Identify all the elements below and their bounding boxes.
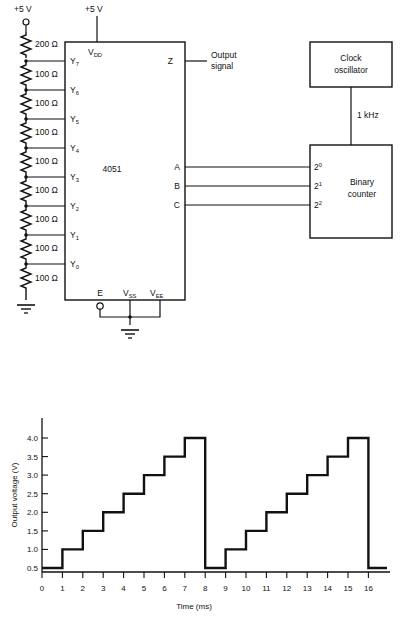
x-tick-label-3: 3: [101, 584, 106, 593]
clock-oscillator-label-line1: Clock: [340, 53, 362, 63]
y-tick-label-6: 3.5: [27, 453, 39, 462]
ic-pin-label-y0: Y0: [70, 259, 79, 270]
counter-output-label-2-2: 22: [314, 200, 322, 210]
y-tick-label-5: 3.0: [27, 471, 39, 480]
waveform-chart: 0.5 1.0 1.5 2.0 2.5 3.0 3.5 4.0 0 1 2 3: [10, 418, 390, 611]
chart-waveform-series: [42, 438, 387, 568]
clock-frequency-label: 1 kHz: [357, 110, 379, 120]
resistor-symbol-1: [21, 32, 31, 58]
supply-left-label: +5 V: [14, 4, 32, 14]
x-tick-label-7: 7: [183, 584, 188, 593]
x-tick-label-13: 13: [303, 584, 312, 593]
resistor-label-5: 100 Ω: [35, 156, 58, 166]
ground-symbol-left-icon: [17, 305, 35, 313]
enable-terminal-icon: [97, 303, 103, 309]
ic-pin-label-y2: Y2: [70, 201, 79, 212]
figure-root: +5 V 200 Ω 100 Ω 100 Ω 100 Ω 100 Ω 100 Ω: [0, 0, 406, 627]
resistor-symbol-6: [21, 177, 31, 206]
x-tick-label-6: 6: [162, 584, 167, 593]
resistor-symbol-8: [21, 235, 31, 264]
circuit-diagram: +5 V 200 Ω 100 Ω 100 Ω 100 Ω 100 Ω 100 Ω: [14, 4, 392, 338]
chart-y-ticks: 0.5 1.0 1.5 2.0 2.5 3.0 3.5 4.0: [27, 434, 48, 573]
ic-pin-label-c: C: [174, 200, 180, 210]
y-tick-label-4: 2.5: [27, 490, 39, 499]
ic-pin-label-b: B: [174, 181, 180, 191]
ic-part-number: 4051: [103, 164, 122, 174]
binary-counter-label-line2: counter: [348, 189, 377, 199]
y-tick-label-2: 1.5: [27, 527, 39, 536]
ic-pin-label-y3: Y3: [70, 172, 79, 183]
x-tick-label-5: 5: [142, 584, 147, 593]
resistor-symbol-9: [21, 264, 31, 300]
x-tick-label-11: 11: [262, 584, 271, 593]
resistor-label-2: 100 Ω: [35, 69, 58, 79]
clock-oscillator-label-line2: oscillator: [334, 65, 368, 75]
y-tick-label-0: 0.5: [27, 564, 39, 573]
resistor-symbol-7: [21, 206, 31, 235]
y-tick-label-3: 2.0: [27, 508, 39, 517]
y-tick-label-7: 4.0: [27, 434, 39, 443]
chart-y-axis-label: Output voltage (V): [10, 462, 19, 527]
resistor-label-3: 100 Ω: [35, 98, 58, 108]
ic-pin-label-y5: Y5: [70, 114, 79, 125]
x-tick-label-16: 16: [364, 584, 373, 593]
resistor-label-9: 100 Ω: [35, 273, 58, 283]
figure-svg: +5 V 200 Ω 100 Ω 100 Ω 100 Ω 100 Ω 100 Ω: [0, 0, 406, 627]
node-dot-ground: [128, 315, 132, 319]
ic-pin-label-e: E: [97, 288, 103, 298]
resistor-label-8: 100 Ω: [35, 243, 58, 253]
supply-terminal-left-icon: [23, 19, 29, 25]
resistor-label-4: 100 Ω: [35, 127, 58, 137]
ic-pin-label-a: A: [174, 162, 180, 172]
resistor-label-6: 100 Ω: [35, 185, 58, 195]
resistor-symbol-5: [21, 148, 31, 177]
output-signal-label-line1: Output: [211, 50, 237, 60]
resistor-symbol-4: [21, 119, 31, 148]
ic-pin-label-y7: Y7: [70, 56, 79, 67]
ic-pin-label-vee: VEE: [150, 288, 164, 299]
x-tick-label-14: 14: [323, 584, 332, 593]
x-tick-label-10: 10: [242, 584, 251, 593]
x-tick-label-9: 9: [223, 584, 228, 593]
x-tick-label-0: 0: [40, 584, 45, 593]
output-signal-label-line2: signal: [211, 61, 233, 71]
ic-pin-label-y6: Y6: [70, 85, 79, 96]
x-tick-label-1: 1: [60, 584, 65, 593]
supply-top-label: +5 V: [85, 4, 103, 14]
ic-pin-label-z: Z: [168, 56, 173, 66]
chart-x-axis-label: Time (ms): [176, 602, 212, 611]
binary-counter-label-line1: Binary: [350, 177, 375, 187]
resistor-symbol-3: [21, 90, 31, 119]
resistor-symbol-2: [21, 61, 31, 90]
resistor-label-1: 200 Ω: [35, 39, 58, 49]
resistor-label-7: 100 Ω: [35, 214, 58, 224]
ground-symbol-bottom-icon: [121, 330, 139, 338]
y-tick-label-1: 1.0: [27, 545, 39, 554]
ic-pin-label-vdd: VDD: [88, 47, 102, 58]
ic-pin-label-y1: Y1: [70, 230, 79, 241]
x-tick-label-4: 4: [121, 584, 126, 593]
ic-pin-label-y4: Y4: [70, 143, 80, 154]
counter-output-label-2-0: 20: [314, 162, 322, 172]
ic-pin-label-vss: VSS: [123, 288, 137, 299]
x-tick-label-2: 2: [81, 584, 86, 593]
x-tick-label-8: 8: [203, 584, 208, 593]
ic-4051-body: [65, 42, 185, 300]
x-tick-label-12: 12: [282, 584, 291, 593]
counter-output-label-2-1: 21: [314, 181, 322, 191]
chart-x-ticks: 0 1 2 3 4 5 6 7 8 9 10 11 12 13: [40, 572, 374, 593]
x-tick-label-15: 15: [344, 584, 353, 593]
